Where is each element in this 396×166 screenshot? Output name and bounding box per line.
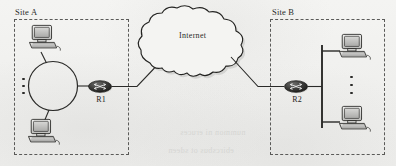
internet-cloud-icon [138, 6, 245, 79]
network-diagram: nummon ni eruces ebircsbus ot sdeen Site… [0, 0, 396, 166]
router-r1-label: R1 [92, 95, 110, 104]
site-a-pc-top-icon [29, 25, 60, 50]
site-b-vertical-ellipsis-icon [350, 76, 353, 94]
router-r2-icon [285, 81, 309, 94]
site-a-ring-topology [29, 62, 78, 111]
router-r2-label: R2 [288, 95, 306, 104]
internet-cloud-label: Internet [179, 31, 206, 40]
site-b-pc-bottom-icon [339, 106, 370, 131]
router-r1-icon [89, 81, 113, 94]
site-a-pc-bottom-icon [28, 119, 59, 144]
site-b-pc-top-icon [339, 34, 370, 59]
diagram-vector-layer [0, 0, 396, 166]
site-a-vertical-ellipsis-icon [22, 78, 25, 94]
site-a-link-top-host [41, 52, 47, 63]
